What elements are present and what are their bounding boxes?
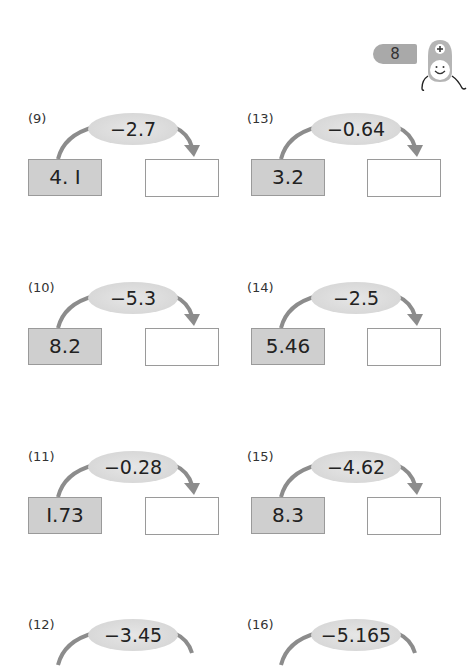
start-value-box: I.73 [28, 497, 102, 534]
problem-label: (14) [247, 280, 274, 295]
problem-label: (15) [247, 449, 274, 464]
answer-box[interactable] [145, 497, 219, 535]
start-value-box: 3.2 [251, 159, 325, 196]
operation-oval: −4.62 [311, 451, 401, 483]
problem-9: (9) −2.7 4. I [28, 111, 248, 211]
answer-box[interactable] [367, 159, 441, 197]
problem-14: (14) −2.5 5.46 [247, 280, 467, 380]
problem-label: (10) [28, 280, 55, 295]
problem-15: (15) −4.62 8.3 [247, 449, 467, 549]
start-value-box: 4. I [28, 159, 102, 196]
start-value-box: 8.3 [251, 497, 325, 534]
problem-12: (12) −3.45 [28, 617, 248, 670]
problem-label: (9) [28, 111, 46, 126]
problem-label: (13) [247, 111, 274, 126]
start-value-box: 8.2 [28, 328, 102, 365]
problem-label: (12) [28, 617, 55, 632]
problem-label: (11) [28, 449, 55, 464]
operation-oval: −5.3 [88, 282, 178, 314]
problem-label: (16) [247, 617, 274, 632]
answer-box[interactable] [145, 328, 219, 366]
operation-oval: −3.45 [88, 619, 178, 651]
start-value-box: 5.46 [251, 328, 325, 365]
problem-10: (10) −5.3 8.2 [28, 280, 248, 380]
answer-box[interactable] [367, 328, 441, 366]
plus-mascot-icon [418, 36, 470, 96]
problem-13: (13) −0.64 3.2 [247, 111, 467, 211]
operation-oval: −2.5 [311, 282, 401, 314]
problem-11: (11) −0.28 I.73 [28, 449, 248, 549]
answer-box[interactable] [367, 497, 441, 535]
page-number-badge: 8 [373, 44, 417, 64]
operation-oval: −0.64 [311, 113, 401, 145]
answer-box[interactable] [145, 159, 219, 197]
operation-oval: −2.7 [88, 113, 178, 145]
operation-oval: −5.165 [311, 619, 401, 651]
operation-oval: −0.28 [88, 451, 178, 483]
problem-16: (16) −5.165 [247, 617, 467, 670]
